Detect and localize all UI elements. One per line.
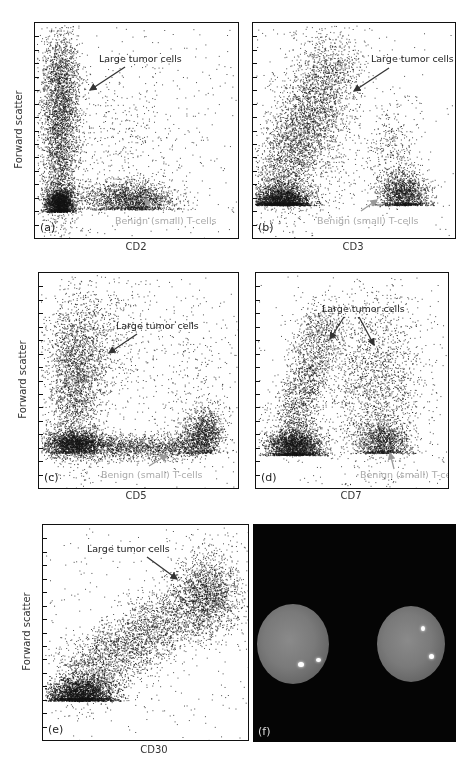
scatter-panel-e: Large tumor cells (e) bbox=[42, 524, 249, 741]
benign-annotation: Benign (small) T-cells bbox=[360, 469, 449, 480]
benign-annotation: Benign (small) T-cells bbox=[115, 215, 217, 226]
y-axis-ticks bbox=[39, 273, 43, 488]
y-axis-ticks bbox=[253, 23, 257, 238]
y-axis-ticks bbox=[256, 273, 260, 488]
scatter-plot-c bbox=[39, 273, 239, 489]
scatter-panel-c: Large tumor cells Benign (small) T-cells… bbox=[38, 272, 239, 489]
y-axis-ticks bbox=[35, 23, 39, 238]
signal-dot bbox=[429, 654, 434, 659]
x-axis-label-c: CD5 bbox=[96, 490, 176, 501]
nucleus-right bbox=[377, 606, 445, 682]
panel-label-b: (b) bbox=[258, 221, 274, 234]
tumor-annotation: Large tumor cells bbox=[87, 543, 170, 554]
y-axis-label-a: Forward scatter bbox=[13, 80, 24, 180]
tumor-annotation: Large tumor cells bbox=[322, 303, 405, 314]
panel-label-f: (f) bbox=[258, 725, 270, 738]
panel-label-e: (e) bbox=[48, 723, 63, 736]
y-axis-label-c: Forward scatter bbox=[17, 330, 28, 430]
x-axis-label-e: CD30 bbox=[114, 744, 194, 755]
signal-dot bbox=[316, 658, 321, 662]
x-axis-label-b: CD3 bbox=[313, 241, 393, 252]
tumor-annotation: Large tumor cells bbox=[99, 53, 182, 64]
tumor-annotation: Large tumor cells bbox=[371, 53, 454, 64]
fluorescence-image-f: (f) bbox=[253, 524, 456, 742]
panel-label-a: (a) bbox=[40, 221, 55, 234]
panel-label-c: (c) bbox=[44, 471, 59, 484]
signal-dot bbox=[298, 662, 304, 667]
scatter-panel-b: Large tumor cells Benign (small) T-cells… bbox=[252, 22, 456, 239]
x-axis-label-d: CD7 bbox=[311, 490, 391, 501]
signal-dot bbox=[421, 626, 425, 631]
x-axis-label-a: CD2 bbox=[96, 241, 176, 252]
tumor-annotation: Large tumor cells bbox=[116, 320, 199, 331]
benign-annotation: Benign (small) T-cells bbox=[101, 469, 203, 480]
benign-annotation: Benign (small) T-cells bbox=[317, 215, 419, 226]
scatter-panel-d: Large tumor cells Benign (small) T-cells… bbox=[255, 272, 449, 489]
y-axis-label-e: Forward scatter bbox=[21, 582, 32, 682]
nucleus-left bbox=[257, 604, 329, 684]
scatter-panel-a: Large tumor cells Benign (small) T-cells… bbox=[34, 22, 239, 239]
scatter-plot-e bbox=[43, 525, 249, 741]
panel-label-d: (d) bbox=[261, 471, 277, 484]
y-axis-ticks bbox=[43, 525, 47, 740]
